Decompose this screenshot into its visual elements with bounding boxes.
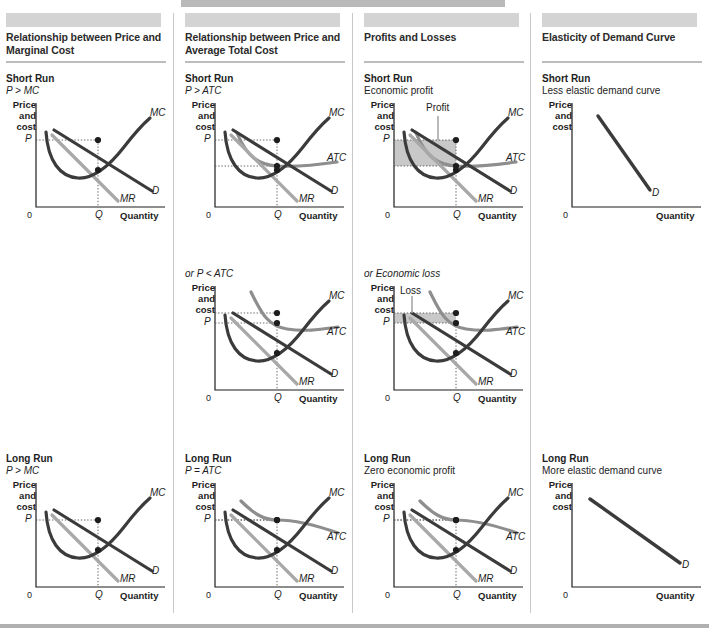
quantity-tick-label: Q [453, 209, 461, 220]
y-axis-label: Priceandcost [360, 479, 394, 512]
y-axis-label: Priceandcost [181, 282, 215, 315]
curve-label-d: D [152, 565, 159, 576]
curve-label-atc: ATC [506, 326, 525, 337]
curve-label-mr: MR [478, 573, 494, 584]
figure-columns: Relationship between Price and Marginal … [0, 13, 709, 625]
curve-label-mc: MC [329, 290, 345, 301]
quantity-tick-label: Q [274, 392, 282, 403]
x-axis-label: Quantity [656, 590, 695, 601]
price-tick-label: P [204, 316, 211, 327]
column-profits-and-losses: Profits and LossesShort RunEconomic prof… [358, 13, 530, 625]
column-price-marginal-cost: Relationship between Price and Marginal … [0, 13, 173, 625]
curve-label-mc: MC [150, 487, 166, 498]
curve-label-mc: MC [329, 107, 345, 118]
origin-label: 0 [563, 210, 568, 220]
price-tick-label: P [25, 513, 32, 524]
curve-label-mr: MR [120, 573, 136, 584]
y-axis-label: Priceandcost [2, 479, 36, 512]
origin-label: 0 [206, 393, 211, 403]
curve-label-mc: MC [508, 107, 524, 118]
panel-run-label: Short Run [542, 73, 590, 84]
curve-label-d: D [510, 565, 517, 576]
quantity-tick-label: Q [453, 392, 461, 403]
x-axis-label: Quantity [656, 210, 695, 221]
curve-label-atc: ATC [327, 152, 346, 163]
quantity-tick-label: Q [453, 589, 461, 600]
curve-label-atc: ATC [506, 152, 525, 163]
x-axis-label: Quantity [478, 590, 517, 601]
price-tick-label: P [204, 133, 211, 144]
panel-run-label: Long Run [542, 453, 589, 464]
curve-label-d: D [652, 187, 659, 198]
column-price-average-total-cost: Relationship between Price and Average T… [179, 13, 352, 625]
graph-atc-high: PriceandcostPQ0QuantityMCDMRATC [181, 282, 351, 404]
column-title: Relationship between Price and Marginal … [6, 31, 172, 57]
x-axis-label: Quantity [299, 590, 338, 601]
origin-label: 0 [563, 590, 568, 600]
curve-label-atc: ATC [327, 531, 346, 542]
curve-label-mr: MR [299, 193, 315, 204]
panel-run-label: Short Run [364, 73, 412, 84]
panel-subtitle: P > MC [6, 85, 39, 96]
graph-atc-tangent: PriceandcostPQ0QuantityMCDMRATC [181, 479, 351, 601]
panel-subtitle: Less elastic demand curve [542, 85, 660, 96]
curve-label-mr: MR [478, 376, 494, 387]
curve-label-mr: MR [299, 573, 315, 584]
curve-label-mc: MC [508, 290, 524, 301]
column-title: Relationship between Price and Average T… [185, 31, 351, 57]
curve-label-mc: MC [329, 487, 345, 498]
y-axis-label: Priceandcost [538, 99, 572, 132]
profit-area-label: Profit [426, 102, 449, 113]
graph-atc-low: PriceandcostPQ0QuantityMCDMRATCProfit [360, 99, 530, 221]
curve-label-atc: ATC [506, 531, 525, 542]
curve-label-mr: MR [299, 376, 315, 387]
graph-demand-flat: Priceandcost0QuantityD [538, 479, 708, 601]
origin-label: 0 [385, 590, 390, 600]
x-axis-label: Quantity [478, 210, 517, 221]
origin-label: 0 [206, 590, 211, 600]
top-banner [181, 0, 505, 7]
column-header-bar [364, 13, 519, 27]
x-axis-label: Quantity [299, 210, 338, 221]
column-rule [542, 61, 702, 63]
panel-run-label: Short Run [6, 73, 54, 84]
column-divider-1 [173, 13, 174, 613]
column-rule [185, 61, 345, 63]
y-axis-label: Priceandcost [181, 99, 215, 132]
origin-label: 0 [385, 393, 390, 403]
column-header-bar [6, 13, 161, 27]
graph-atc-high: PriceandcostPQ0QuantityMCDMRATCLoss [360, 282, 530, 404]
y-axis-label: Priceandcost [181, 479, 215, 512]
y-axis-label: Priceandcost [538, 479, 572, 512]
curve-label-d: D [152, 185, 159, 196]
column-divider-2 [352, 13, 353, 613]
column-rule [364, 61, 524, 63]
origin-label: 0 [385, 210, 390, 220]
curve-label-d: D [510, 368, 517, 379]
quantity-tick-label: Q [274, 209, 282, 220]
panel-run-label: Long Run [185, 453, 232, 464]
panel-subtitle: or Economic loss [364, 268, 440, 279]
price-tick-label: P [383, 133, 390, 144]
panel-subtitle: or P < ATC [185, 268, 233, 279]
graph-mc-only: PriceandcostPQ0QuantityMCDMR [2, 99, 172, 221]
column-header-bar [185, 13, 340, 27]
graph-atc-low: PriceandcostPQ0QuantityMCDMRATC [181, 99, 351, 221]
price-tick-label: P [204, 513, 211, 524]
y-axis-label: Priceandcost [360, 282, 394, 315]
x-axis-label: Quantity [120, 590, 159, 601]
graph-atc-tangent: PriceandcostPQ0QuantityMCDMRATC [360, 479, 530, 601]
quantity-tick-label: Q [95, 209, 103, 220]
panel-run-label: Long Run [364, 453, 411, 464]
column-title: Elasticity of Demand Curve [542, 31, 708, 44]
panel-subtitle: P = ATC [185, 465, 222, 476]
quantity-tick-label: Q [274, 589, 282, 600]
x-axis-label: Quantity [120, 210, 159, 221]
panel-run-label: Long Run [6, 453, 53, 464]
price-tick-label: P [383, 316, 390, 327]
curve-label-mr: MR [478, 193, 494, 204]
curve-label-d: D [331, 565, 338, 576]
panel-subtitle: Zero economic profit [364, 465, 455, 476]
column-rule [6, 61, 166, 63]
curve-label-d: D [510, 185, 517, 196]
